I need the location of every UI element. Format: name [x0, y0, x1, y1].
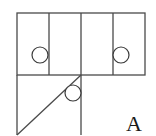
left-panel-circle [32, 47, 48, 63]
right-panel-circle [113, 47, 129, 63]
diagonal-circle [65, 85, 81, 101]
diagonal-line [17, 75, 81, 135]
diagram-canvas: A [0, 0, 156, 136]
figure-label: A [126, 111, 142, 136]
